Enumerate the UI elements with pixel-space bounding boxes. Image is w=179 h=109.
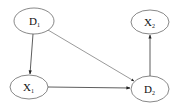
node-d2: D 2: [131, 76, 169, 102]
causal-diagram: D 1 X 2 X 1 D 2: [0, 0, 179, 109]
diagram-svg: D 1 X 2 X 1 D 2: [0, 0, 179, 109]
node-d2-subscript: 2: [152, 90, 155, 96]
node-x2-subscript: 2: [152, 23, 155, 29]
edge-d1-to-d2: [48, 30, 134, 81]
node-d1-label: D: [29, 15, 37, 27]
node-d1: D 1: [14, 8, 54, 34]
node-x1: X 1: [10, 75, 48, 99]
node-x1-subscript: 1: [31, 88, 34, 94]
node-d2-label: D: [144, 83, 152, 95]
node-x1-label: X: [23, 81, 31, 93]
edge-d1-to-x1: [30, 34, 33, 74]
edges: [30, 30, 150, 88]
node-x2: X 2: [131, 10, 169, 34]
node-d1-subscript: 1: [37, 22, 40, 28]
node-x2-label: X: [144, 16, 152, 28]
edge-x1-to-d2: [48, 87, 130, 88]
